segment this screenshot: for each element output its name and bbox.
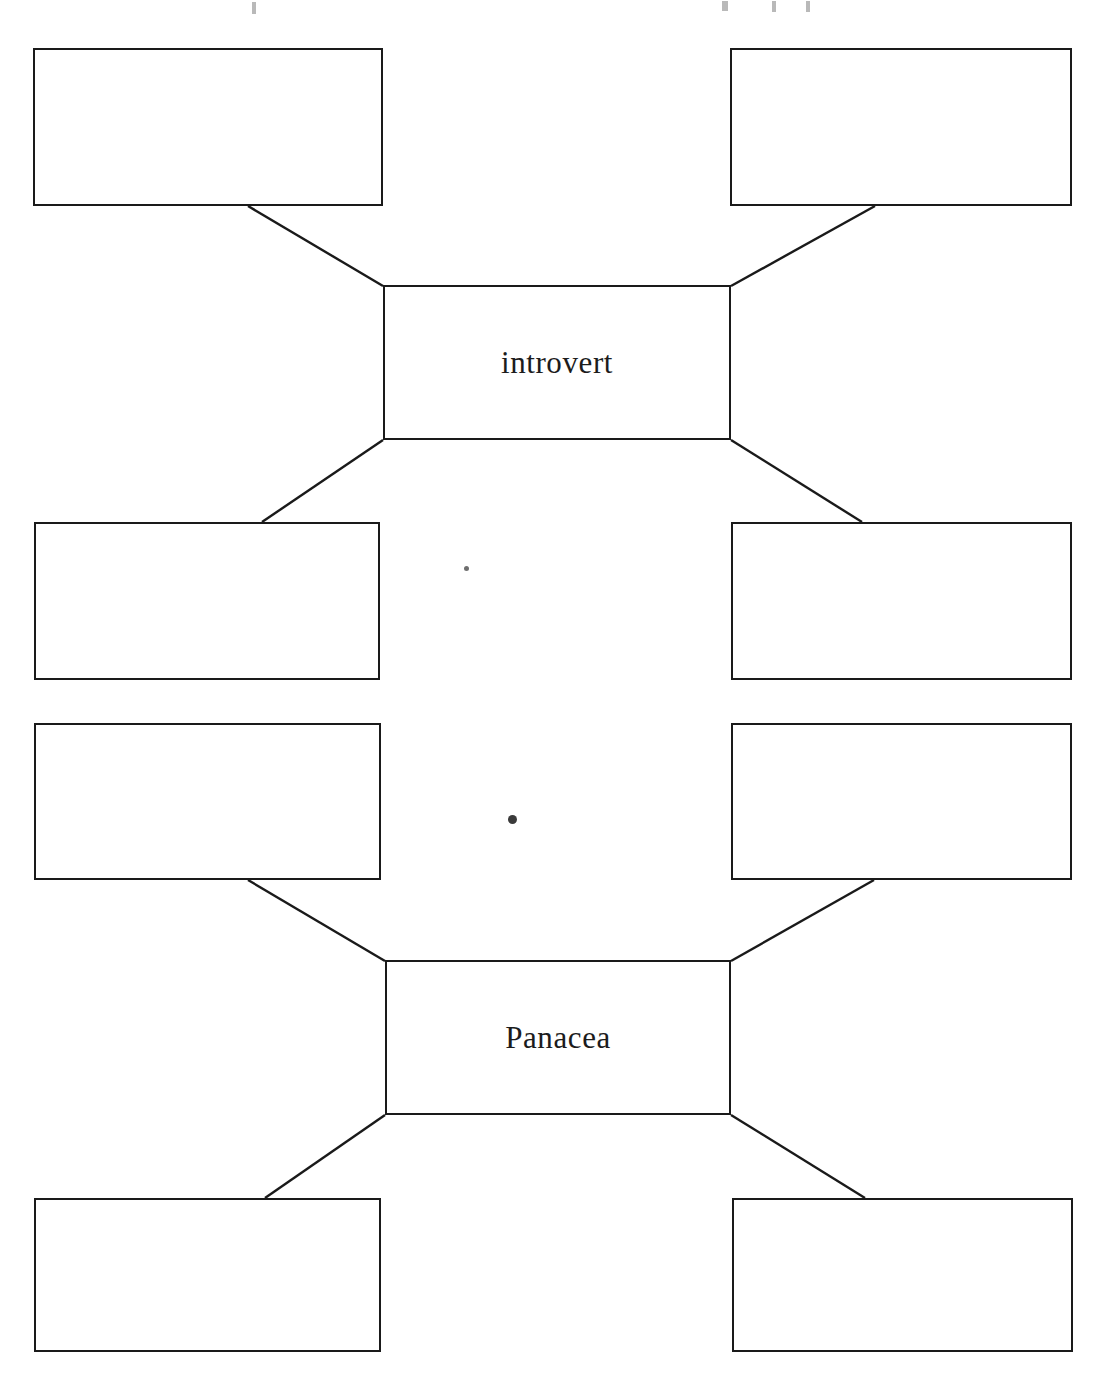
answer-box[interactable]	[34, 723, 381, 880]
answer-box[interactable]	[34, 522, 380, 680]
scan-artifact	[722, 1, 728, 11]
scan-artifact	[508, 815, 517, 824]
answer-box[interactable]	[731, 723, 1072, 880]
center-word-label: introvert	[501, 347, 613, 378]
connector-line	[731, 880, 874, 961]
answer-box[interactable]	[34, 1198, 381, 1352]
connector-line	[248, 206, 383, 286]
scan-artifact	[252, 2, 256, 14]
connector-line	[731, 206, 875, 286]
answer-box[interactable]	[732, 1198, 1073, 1352]
connector-layer	[0, 0, 1112, 1379]
scan-artifact	[772, 1, 776, 12]
answer-box[interactable]	[731, 522, 1072, 680]
worksheet-page: introvertPanacea	[0, 0, 1112, 1379]
connector-line	[731, 440, 862, 522]
scan-artifact	[464, 566, 469, 571]
answer-box[interactable]	[730, 48, 1072, 206]
connector-line	[262, 440, 383, 522]
center-word-box[interactable]: introvert	[383, 285, 731, 440]
center-word-label: Panacea	[505, 1022, 611, 1053]
center-word-box[interactable]: Panacea	[385, 960, 731, 1115]
connector-line	[248, 880, 385, 961]
scan-artifact	[806, 1, 810, 12]
connector-line	[265, 1115, 385, 1198]
connector-line	[731, 1115, 865, 1198]
answer-box[interactable]	[33, 48, 383, 206]
